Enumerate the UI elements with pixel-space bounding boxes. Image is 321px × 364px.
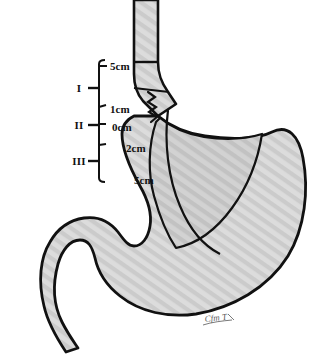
figure-canvas: I II III 5cm 1cm 0cm 2cm 5cm Cfm T (0, 0, 321, 364)
measurement-ruler: I II III (72, 60, 106, 182)
artist-signature: Cfm T (203, 312, 234, 325)
ruler-tick-3 (99, 144, 106, 145)
zone-label-i: I (77, 82, 82, 94)
distance-label-5cm-lower: 5cm (134, 174, 154, 186)
anatomy-diagram: I II III 5cm 1cm 0cm 2cm 5cm Cfm T (0, 0, 321, 364)
ruler-cap-bottom (99, 178, 105, 182)
distance-label-5cm-upper: 5cm (110, 60, 130, 72)
zone-label-iii: III (72, 155, 86, 167)
ruler-tick-1 (99, 105, 106, 107)
distance-label-1cm: 1cm (110, 103, 130, 115)
ruler-cap-top (99, 60, 105, 64)
esophagus (134, 0, 176, 116)
zone-label-ii: II (74, 119, 83, 131)
distance-label-0cm: 0cm (112, 121, 132, 133)
distance-label-2cm: 2cm (126, 142, 146, 154)
